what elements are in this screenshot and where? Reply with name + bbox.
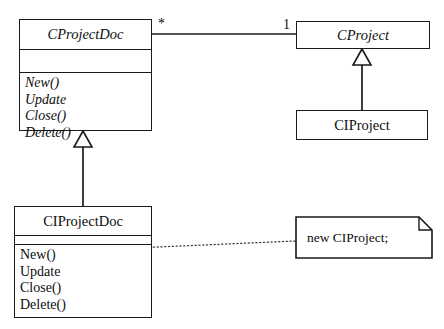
attribute-compartment-cprojectdoc <box>20 49 151 72</box>
operation-item: Close() <box>20 280 151 297</box>
operation-item: New() <box>25 75 151 92</box>
class-name-cproject: CProject <box>337 28 389 43</box>
uml-class-diagram: CProjectDoc New() Update Close() Delete(… <box>0 0 444 329</box>
generalization-ciprojectdoc-cprojectdoc <box>74 131 92 206</box>
note-text: new CIProject; <box>307 231 388 245</box>
class-name-compartment-cprojectdoc: CProjectDoc <box>20 20 151 49</box>
multiplicity-target-one: 1 <box>283 18 290 32</box>
class-name-cprojectdoc: CProjectDoc <box>48 27 124 42</box>
class-box-cprojectdoc[interactable]: CProjectDoc New() Update Close() Delete(… <box>19 19 152 131</box>
operation-item: Delete() <box>20 297 151 314</box>
attribute-compartment-ciprojectdoc <box>15 235 151 244</box>
class-name-ciproject: CIProject <box>334 118 390 133</box>
multiplicity-source-star: * <box>158 17 165 31</box>
operation-compartment-ciprojectdoc: New() Update Close() Delete() <box>15 244 151 317</box>
class-box-ciprojectdoc[interactable]: CIProjectDoc New() Update Close() Delete… <box>14 206 152 318</box>
operation-item: Close() <box>25 108 151 125</box>
operation-item: Update <box>20 264 151 281</box>
operation-compartment-cprojectdoc: New() Update Close() Delete() <box>20 72 151 130</box>
operation-item: New() <box>20 247 151 264</box>
class-name-compartment-ciprojectdoc: CIProjectDoc <box>15 207 151 235</box>
class-box-cproject[interactable]: CProject <box>296 21 430 49</box>
generalization-ciproject-cproject <box>353 49 371 110</box>
class-box-ciproject[interactable]: CIProject <box>296 110 428 140</box>
class-name-ciprojectdoc: CIProjectDoc <box>43 214 123 229</box>
operation-item: Update <box>25 92 151 109</box>
operation-item: Delete() <box>25 125 151 142</box>
